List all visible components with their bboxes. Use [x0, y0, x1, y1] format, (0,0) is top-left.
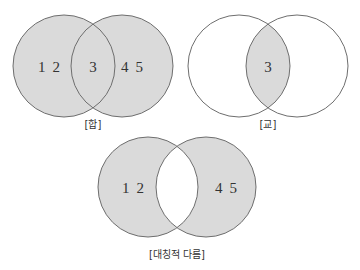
intersection-elements: 3: [264, 59, 272, 75]
symdiff-caption: [대칭적 다름]: [149, 249, 205, 260]
symmetric-difference-diagram: 12 45 [대칭적 다름]: [98, 137, 256, 260]
union-diagram: 12 3 45 [합]: [13, 15, 173, 130]
union-intersection-elements: 3: [89, 59, 97, 75]
union-caption: [합]: [85, 119, 102, 130]
intersection-shaded-region: [246, 15, 348, 117]
venn-diagrams-canvas: 12 3 45 [합] 3 [교] 12 45 [대칭적 다름]: [0, 0, 360, 270]
intersection-diagram: 3 [교]: [188, 15, 348, 130]
intersection-caption: [교]: [260, 119, 277, 130]
